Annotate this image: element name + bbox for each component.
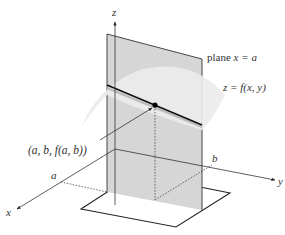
point-marker (152, 102, 157, 107)
plane-label: plane x = a (207, 52, 257, 63)
a-tick-label: a (51, 170, 57, 181)
y-axis-label: y (278, 176, 283, 187)
b-tick-label: b (212, 153, 218, 164)
z-axis-label: z (112, 7, 116, 18)
plane-word: plane (207, 51, 231, 63)
partial-derivative-diagram: z x y plane x = a z = f(x, y) (a, b, f(a… (0, 0, 285, 235)
x-axis-label: x (6, 207, 11, 218)
plane-equation: x = a (234, 51, 257, 63)
surface-label: z = f(x, y) (223, 82, 266, 93)
point-label: (a, b, f(a, b)) (28, 145, 87, 157)
